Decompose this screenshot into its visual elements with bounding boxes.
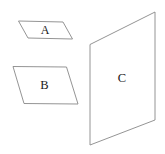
plane-a-label: A — [41, 23, 50, 37]
plane-c-label: C — [118, 71, 126, 85]
figure-canvas: A B C — [0, 0, 165, 154]
geometry-diagram: A B C — [0, 0, 165, 154]
plane-b-label: B — [40, 78, 48, 92]
